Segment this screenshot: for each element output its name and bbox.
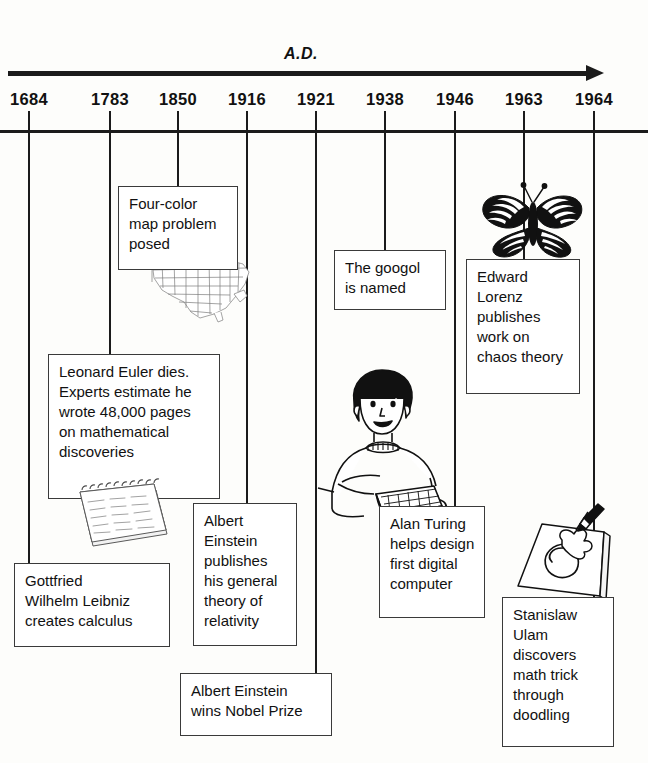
year-label-1938: 1938 bbox=[366, 90, 404, 109]
person-at-keyboard-icon bbox=[318, 366, 452, 518]
year-tick-1684 bbox=[28, 111, 30, 133]
event-text-line: computer bbox=[390, 574, 475, 594]
connector-line-einstein-nobel-prize bbox=[315, 133, 317, 673]
event-text-line: wins Nobel Prize bbox=[191, 701, 322, 721]
timeline-diagram: A.D. 16841783185019161921193819461963196… bbox=[0, 0, 648, 763]
year-label-1783: 1783 bbox=[91, 90, 129, 109]
event-text-line: Albert bbox=[204, 511, 287, 531]
year-label-1684: 1684 bbox=[10, 90, 48, 109]
event-text-line: Ulam bbox=[513, 625, 604, 645]
event-text-line: math trick bbox=[513, 665, 604, 685]
connector-line-gottfried-leibniz bbox=[28, 133, 30, 563]
year-label-1916: 1916 bbox=[228, 90, 266, 109]
event-text-line: relativity bbox=[204, 611, 287, 631]
event-text-line: doodling bbox=[513, 705, 604, 725]
event-text-line: discoveries bbox=[59, 442, 210, 462]
event-text-line: first digital bbox=[390, 554, 475, 574]
event-text-line: Einstein bbox=[204, 531, 287, 551]
era-label: A.D. bbox=[284, 45, 318, 63]
event-text-line: map problem bbox=[129, 214, 228, 234]
connector-line-alan-turing bbox=[454, 133, 456, 506]
event-text-line: publishes bbox=[204, 551, 287, 571]
hand-drawing-spiral-icon bbox=[500, 500, 618, 610]
event-text-line: discovers bbox=[513, 645, 604, 665]
event-text-line: Gottfried bbox=[25, 571, 160, 591]
event-box-einstein-nobel-prize[interactable]: Albert Einsteinwins Nobel Prize bbox=[180, 673, 332, 736]
event-text-line: Stanislaw bbox=[513, 605, 604, 625]
event-text-line: Four-color bbox=[129, 194, 228, 214]
year-tick-1921 bbox=[315, 111, 317, 133]
event-text-line: on mathematical bbox=[59, 422, 210, 442]
event-text-line: creates calculus bbox=[25, 611, 160, 631]
event-text-line: Wilhelm Leibniz bbox=[25, 591, 160, 611]
event-text-line: work on bbox=[477, 327, 570, 347]
event-text-line: Lorenz bbox=[477, 287, 570, 307]
event-text-line: theory of bbox=[204, 591, 287, 611]
event-text-line: through bbox=[513, 685, 604, 705]
year-label-1963: 1963 bbox=[505, 90, 543, 109]
connector-line-leonard-euler bbox=[109, 133, 111, 354]
year-tick-1964 bbox=[593, 111, 595, 133]
event-box-gottfried-leibniz[interactable]: GottfriedWilhelm Leibnizcreates calculus bbox=[14, 563, 170, 647]
event-text-line: Alan Turing bbox=[390, 514, 475, 534]
event-box-stanislaw-ulam[interactable]: StanislawUlamdiscoversmath trickthroughd… bbox=[502, 597, 614, 747]
event-text-line: publishes bbox=[477, 307, 570, 327]
event-box-alan-turing[interactable]: Alan Turinghelps designfirst digitalcomp… bbox=[379, 506, 485, 618]
year-label-1964: 1964 bbox=[575, 90, 613, 109]
event-box-four-color-map[interactable]: Four-colormap problemposed bbox=[118, 186, 238, 270]
year-tick-1783 bbox=[109, 111, 111, 133]
event-text-line: is named bbox=[345, 278, 436, 298]
year-label-1946: 1946 bbox=[436, 90, 474, 109]
year-tick-1963 bbox=[523, 111, 525, 133]
timeline-baseline bbox=[0, 130, 648, 133]
year-label-1850: 1850 bbox=[159, 90, 197, 109]
year-tick-1916 bbox=[246, 111, 248, 133]
event-text-line: chaos theory bbox=[477, 347, 570, 367]
event-text-line: Edward bbox=[477, 267, 570, 287]
event-text-line: The googol bbox=[345, 258, 436, 278]
event-box-einstein-general-relativity[interactable]: AlbertEinsteinpublisheshis generaltheory… bbox=[193, 503, 297, 646]
year-label-1921: 1921 bbox=[297, 90, 335, 109]
event-text-line: Experts estimate he bbox=[59, 382, 210, 402]
connector-line-googol-named bbox=[384, 133, 386, 250]
event-text-line: Leonard Euler dies. bbox=[59, 362, 210, 382]
event-text-line: his general bbox=[204, 571, 287, 591]
year-tick-1938 bbox=[384, 111, 386, 133]
spiral-notepad-icon bbox=[68, 478, 172, 550]
event-text-line: Albert Einstein bbox=[191, 681, 322, 701]
event-text-line: wrote 48,000 pages bbox=[59, 402, 210, 422]
event-box-googol-named[interactable]: The googolis named bbox=[334, 250, 446, 310]
year-tick-1946 bbox=[454, 111, 456, 133]
year-tick-1850 bbox=[177, 111, 179, 133]
event-text-line: posed bbox=[129, 234, 228, 254]
butterfly-icon bbox=[478, 178, 586, 264]
timeline-arrow-shaft bbox=[8, 71, 594, 76]
event-text-line: helps design bbox=[390, 534, 475, 554]
event-box-edward-lorenz[interactable]: EdwardLorenzpublisheswork onchaos theory bbox=[466, 259, 580, 394]
timeline-arrow-head bbox=[586, 65, 604, 81]
connector-line-four-color-map bbox=[177, 133, 179, 186]
